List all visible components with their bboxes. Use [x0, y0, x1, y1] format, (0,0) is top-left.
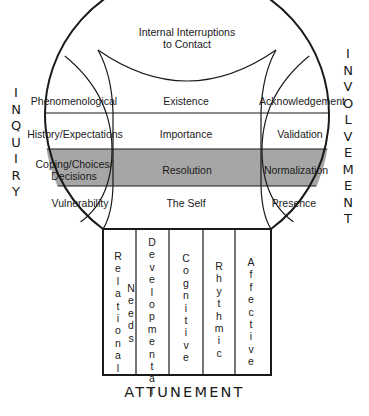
- affective-letter: t: [244, 318, 258, 330]
- affective-letter: e: [244, 355, 258, 367]
- cell-phenomenological: Phenomenological: [31, 95, 117, 107]
- column-cognitive: Cognitive: [179, 252, 193, 364]
- rhythmic-letter: c: [212, 347, 226, 359]
- column-relational-needs: Needs: [126, 282, 136, 344]
- affective-letter: A: [244, 256, 258, 268]
- needs-letter: e: [126, 307, 136, 319]
- involvement-letter: E: [340, 145, 356, 162]
- cell-validation: Validation: [277, 128, 322, 140]
- involvement-letter: N: [340, 195, 356, 212]
- rhythmic-letter: h: [212, 272, 226, 284]
- column-relational: Relational: [111, 250, 125, 374]
- relational-letter: R: [111, 250, 125, 262]
- involvement-letter: L: [340, 112, 356, 129]
- involvement-letter: T: [340, 211, 356, 228]
- relational-letter: i: [111, 312, 125, 324]
- cell-validation-text: Validation: [277, 128, 322, 140]
- cognitive-letter: C: [179, 252, 193, 264]
- involvement-letter: M: [340, 162, 356, 179]
- affective-letter: f: [244, 268, 258, 280]
- cell-acknowledgement: Acknowledgement: [259, 95, 345, 107]
- inquiry-letter: U: [8, 135, 24, 152]
- top-cap-curve: [98, 50, 276, 81]
- cognitive-letter: i: [179, 302, 193, 314]
- inquiry-letter: R: [8, 168, 24, 185]
- needs-letter: e: [126, 294, 136, 306]
- developmental-letter: D: [145, 236, 159, 248]
- involvement-axis-label: INVOLVEMENT: [340, 46, 356, 228]
- developmental-letter: t: [145, 360, 159, 372]
- rhythmic-letter: y: [212, 285, 226, 297]
- needs-letter: N: [126, 282, 136, 294]
- inquiry-letter: Y: [8, 184, 24, 201]
- relational-letter: n: [111, 337, 125, 349]
- developmental-letter: e: [145, 273, 159, 285]
- top-cap-line1: Internal Interruptions: [139, 26, 235, 38]
- attunement-label: ATTUNEMENT: [0, 384, 369, 400]
- inquiry-letter: I: [8, 85, 24, 102]
- affective-letter: f: [244, 281, 258, 293]
- relational-letter: l: [111, 362, 125, 374]
- top-cap-line2: to Contact: [139, 38, 235, 50]
- involvement-letter: E: [340, 178, 356, 195]
- needs-letter: d: [126, 319, 136, 331]
- involvement-letter: V: [340, 79, 356, 96]
- top-cap-label: Internal Interruptions to Contact: [139, 26, 235, 50]
- relational-letter: t: [111, 300, 125, 312]
- cell-coping-choices-decisions: Coping/Choices/ Decisions: [35, 158, 112, 182]
- developmental-letter: o: [145, 298, 159, 310]
- cell-vulnerability: Vulnerability: [52, 197, 109, 209]
- column-affective: Affective: [244, 256, 258, 368]
- inquiry-letter: N: [8, 102, 24, 119]
- cell-coping-line1: Coping/Choices/: [35, 158, 112, 170]
- cell-history-expectations: History/Expectations: [27, 128, 123, 140]
- relational-letter: e: [111, 262, 125, 274]
- rhythmic-letter: t: [212, 297, 226, 309]
- affective-letter: v: [244, 343, 258, 355]
- developmental-letter: e: [145, 248, 159, 260]
- affective-letter: e: [244, 293, 258, 305]
- relational-letter: a: [111, 349, 125, 361]
- needs-letter: s: [126, 332, 136, 344]
- developmental-letter: a: [145, 372, 159, 384]
- cognitive-letter: o: [179, 264, 193, 276]
- developmental-letter: e: [145, 335, 159, 347]
- relational-letter: l: [111, 275, 125, 287]
- cell-coping-line2: Decisions: [35, 170, 112, 182]
- cognitive-letter: v: [179, 339, 193, 351]
- affective-letter: i: [244, 330, 258, 342]
- rhythmic-letter: m: [212, 322, 226, 334]
- cognitive-letter: t: [179, 314, 193, 326]
- inquiry-axis-label: INQUIRY: [8, 85, 24, 201]
- developmental-letter: m: [145, 323, 159, 335]
- cell-the-self: The Self: [166, 197, 205, 209]
- relational-letter: o: [111, 324, 125, 336]
- cell-presence: Presence: [272, 197, 316, 209]
- affective-letter: c: [244, 306, 258, 318]
- cell-existence: Existence: [163, 95, 209, 107]
- inquiry-letter: Q: [8, 118, 24, 135]
- involvement-letter: N: [340, 63, 356, 80]
- developmental-letter: v: [145, 261, 159, 273]
- inquiry-letter: I: [8, 151, 24, 168]
- developmental-letter: n: [145, 348, 159, 360]
- relational-letter: a: [111, 287, 125, 299]
- column-developmental: Developmental: [145, 236, 159, 397]
- cell-normalization: Normalization: [264, 164, 328, 176]
- column-rhythmic: Rhythmic: [212, 260, 226, 359]
- cognitive-letter: e: [179, 351, 193, 363]
- cognitive-letter: i: [179, 326, 193, 338]
- involvement-letter: O: [340, 96, 356, 113]
- developmental-letter: l: [145, 286, 159, 298]
- cognitive-letter: g: [179, 277, 193, 289]
- involvement-letter: I: [340, 46, 356, 63]
- rhythmic-letter: h: [212, 310, 226, 322]
- developmental-letter: p: [145, 310, 159, 322]
- rhythmic-letter: i: [212, 334, 226, 346]
- rhythmic-letter: R: [212, 260, 226, 272]
- involvement-letter: V: [340, 129, 356, 146]
- cell-resolution: Resolution: [162, 164, 212, 176]
- cognitive-letter: n: [179, 289, 193, 301]
- cell-importance: Importance: [160, 128, 213, 140]
